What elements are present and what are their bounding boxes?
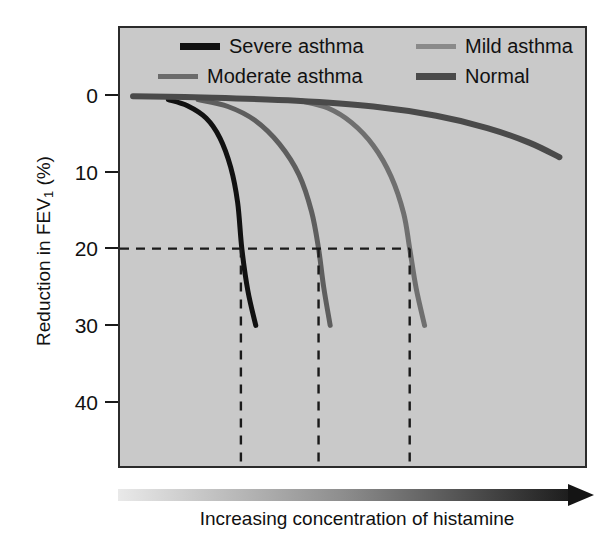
series-group — [133, 96, 559, 325]
y-tick-mark-30 — [105, 324, 118, 326]
legend-item-mild-asthma: Mild asthma — [416, 36, 573, 56]
legend-item-severe-asthma: Severe asthma — [180, 36, 364, 56]
curves-svg — [120, 28, 585, 466]
y-axis-title-subscript: 1 — [41, 191, 56, 198]
y-tick-mark-20 — [105, 247, 118, 249]
y-tick-mark-0 — [105, 94, 118, 96]
chart-figure: Reduction in FEV1 (%) 0 10 20 30 40 Seve… — [0, 0, 609, 540]
legend-label-normal: Normal — [465, 66, 529, 86]
legend-swatch-severe-asthma — [180, 43, 220, 50]
x-axis-arrow-head — [568, 484, 594, 506]
y-tick-label-30: 30 — [52, 315, 98, 336]
curve-severe-asthma — [168, 100, 255, 326]
legend-item-moderate-asthma: Moderate asthma — [158, 66, 363, 86]
annotation-group — [120, 249, 410, 466]
legend-swatch-mild-asthma — [416, 44, 456, 49]
curve-mild-asthma — [302, 101, 424, 325]
y-axis-title-main: Reduction in FEV — [33, 198, 54, 346]
legend-label-moderate-asthma: Moderate asthma — [207, 66, 363, 86]
legend-label-severe-asthma: Severe asthma — [229, 36, 364, 56]
curve-normal — [133, 96, 559, 157]
legend-item-normal: Normal — [416, 66, 529, 86]
x-axis-title: Increasing concentration of histamine — [118, 508, 596, 530]
y-tick-mark-40 — [105, 401, 118, 403]
y-tick-label-20: 20 — [52, 238, 98, 259]
y-tick-label-40: 40 — [52, 392, 98, 413]
plot-area: Severe asthma Moderate asthma Mild asthm… — [118, 26, 587, 468]
legend-swatch-normal — [416, 73, 456, 80]
x-axis-arrow — [118, 484, 596, 506]
y-tick-mark-10 — [105, 171, 118, 173]
legend-swatch-moderate-asthma — [158, 74, 198, 79]
y-tick-label-10: 10 — [52, 162, 98, 183]
y-tick-label-0: 0 — [52, 85, 98, 106]
y-axis-title-unit: (%) — [33, 156, 54, 191]
legend: Severe asthma Moderate asthma Mild asthm… — [180, 34, 580, 90]
x-axis-arrow-shaft — [118, 489, 570, 501]
legend-label-mild-asthma: Mild asthma — [465, 36, 573, 56]
